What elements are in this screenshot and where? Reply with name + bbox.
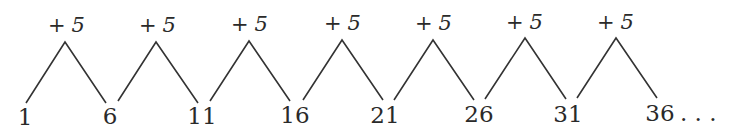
- step-label-1: +5: [48, 13, 85, 37]
- arch-6: [485, 38, 566, 99]
- term-6: 26: [464, 101, 493, 127]
- arch-1: [26, 42, 106, 103]
- step-labels: +5 +5 +5 +5 +5 +5 +5: [48, 10, 634, 37]
- term-8: 36: [645, 100, 674, 126]
- arch-3: [210, 41, 290, 101]
- arch-5: [394, 40, 474, 100]
- terms: 1 6 11 16 21 26 31 36 . . .: [18, 100, 717, 130]
- arch-7: [577, 38, 657, 98]
- term-2: 6: [103, 103, 118, 129]
- sequence-diagram: +5 +5 +5 +5 +5 +5 +5 1 6 11 16 21 26 31 …: [0, 0, 738, 137]
- term-1: 1: [18, 104, 33, 130]
- ellipsis: . . .: [680, 100, 717, 126]
- term-4: 16: [280, 102, 309, 128]
- term-7: 31: [553, 101, 582, 127]
- step-label-6: +5: [506, 10, 543, 34]
- arches: [26, 38, 657, 103]
- arch-2: [118, 42, 198, 103]
- step-label-5: +5: [415, 11, 452, 35]
- term-3: 11: [187, 103, 216, 129]
- step-label-2: +5: [139, 13, 176, 37]
- arch-4: [303, 40, 383, 100]
- step-label-7: +5: [597, 10, 634, 34]
- step-label-4: +5: [324, 11, 361, 35]
- step-label-3: +5: [231, 12, 268, 36]
- term-5: 21: [370, 102, 399, 128]
